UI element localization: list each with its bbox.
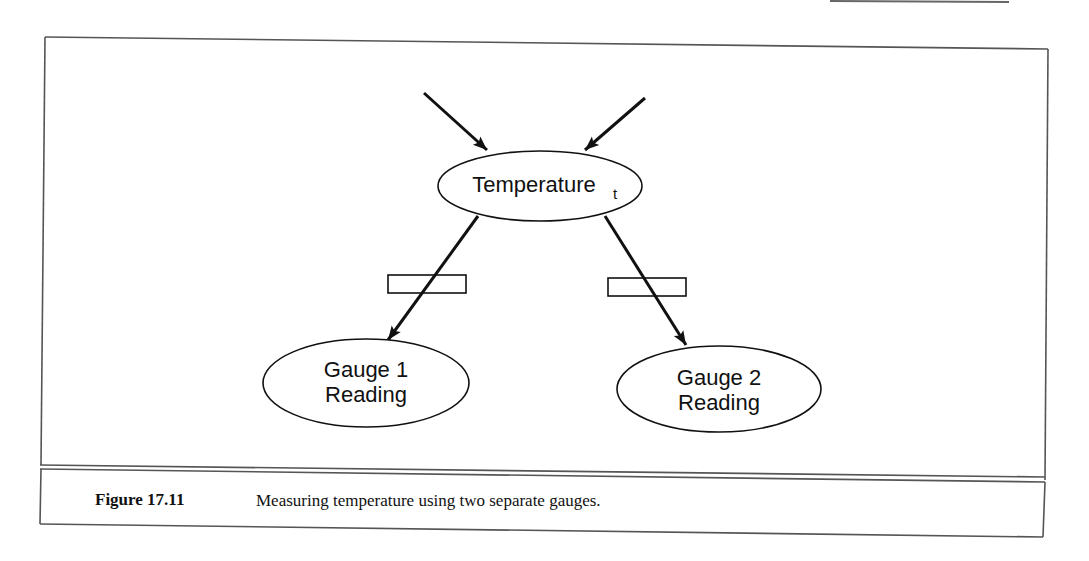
node-gauge1-line2: Reading <box>325 382 407 407</box>
node-gauge2-line2: Reading <box>678 390 760 415</box>
page-rule <box>830 1 1009 2</box>
edge-temperature-gauge1 <box>388 216 478 340</box>
edge-temperature-gauge2 <box>605 216 686 345</box>
node-gauge2[interactable]: Gauge 2 Reading <box>617 346 821 432</box>
node-temperature-label: Temperature <box>472 172 596 197</box>
incoming-arrow-right <box>585 98 645 150</box>
figure-frame <box>40 37 1048 537</box>
node-temperature[interactable]: Temperature t <box>438 151 642 221</box>
figure-canvas: Temperature t Gauge 1 Reading Gauge 2 Re… <box>0 0 1089 561</box>
figure-caption: Measuring temperature using two separate… <box>256 491 601 510</box>
incoming-arrow-left <box>424 93 487 150</box>
node-gauge1[interactable]: Gauge 1 Reading <box>263 339 469 427</box>
node-gauge1-line1: Gauge 1 <box>324 357 408 382</box>
figure-number: Figure 17.11 <box>95 490 184 509</box>
node-gauge2-line1: Gauge 2 <box>677 365 761 390</box>
